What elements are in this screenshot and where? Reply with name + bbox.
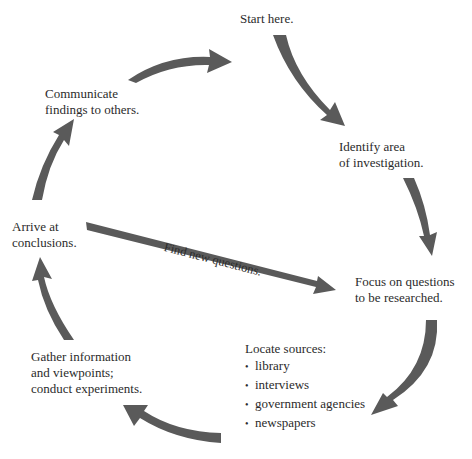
bullet-icon: • <box>245 358 255 376</box>
arrow-identify-to-focus <box>403 178 437 256</box>
node-identify-line-1: Identify area <box>339 139 424 155</box>
node-focus: Focus on questions to be researched. <box>355 274 455 306</box>
node-communicate-line-1: Communicate <box>45 86 139 102</box>
source-item-newspapers: •newspapers <box>245 414 365 433</box>
arrow-focus-to-locate <box>371 320 437 415</box>
arrow-locate-to-gather <box>123 405 221 443</box>
research-cycle-diagram: Start here. Identify area of investigati… <box>0 0 472 459</box>
node-arrive-line-2: conclusions. <box>12 235 77 251</box>
node-gather-line-1: Gather information <box>31 349 142 365</box>
node-identify-line-2: of investigation. <box>339 155 424 171</box>
source-item-interviews: •interviews <box>245 376 365 395</box>
node-start: Start here. <box>240 11 293 27</box>
source-item-government-agencies: •government agencies <box>245 395 365 414</box>
node-gather: Gather information and viewpoints; condu… <box>31 349 142 397</box>
node-communicate-line-2: findings to others. <box>45 102 139 118</box>
arrow-communicate-to-start <box>128 49 232 83</box>
node-gather-line-2: and viewpoints; <box>31 365 142 381</box>
source-item-library: •library <box>245 357 365 376</box>
node-locate: Locate sources: •library •interviews •go… <box>245 341 365 433</box>
node-arrive-line-1: Arrive at <box>12 219 77 235</box>
arrow-start-to-identify <box>273 35 345 126</box>
node-focus-line-2: to be researched. <box>355 290 455 306</box>
node-communicate: Communicate findings to others. <box>45 86 139 118</box>
source-label: newspapers <box>255 415 316 430</box>
node-start-text: Start here. <box>240 11 293 27</box>
bullet-icon: • <box>245 396 255 414</box>
source-list: •library •interviews •government agencie… <box>245 357 365 433</box>
source-label: interviews <box>255 377 309 392</box>
arrow-gather-to-arrive <box>32 257 74 340</box>
source-label: library <box>255 358 290 373</box>
bullet-icon: • <box>245 377 255 395</box>
node-locate-heading: Locate sources: <box>245 341 365 357</box>
source-label: government agencies <box>255 396 365 411</box>
node-gather-line-3: conduct experiments. <box>31 381 142 397</box>
node-focus-line-1: Focus on questions <box>355 274 455 290</box>
node-arrive: Arrive at conclusions. <box>12 219 77 251</box>
arrow-arrive-to-communicate <box>32 119 74 200</box>
bullet-icon: • <box>245 415 255 433</box>
node-identify: Identify area of investigation. <box>339 139 424 171</box>
